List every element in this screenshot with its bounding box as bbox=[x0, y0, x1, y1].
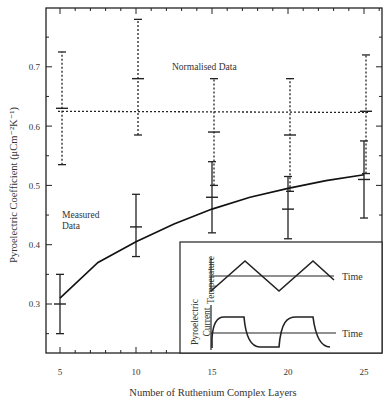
x-tick-label: 10 bbox=[132, 367, 142, 377]
y-tick-label: 0.5 bbox=[29, 181, 41, 191]
normalised-series bbox=[56, 19, 372, 191]
normalised-data-label: Normalised Data bbox=[172, 62, 237, 72]
y-tick-label: 0.7 bbox=[29, 62, 41, 72]
chart: 5 10 15 20 25 0.3 0.4 0.5 0.6 0.7 Number… bbox=[0, 0, 388, 407]
inset-time-label-1: Time bbox=[342, 271, 363, 282]
y-axis-title: Pyroelectric Coefficient (μCm⁻²K⁻¹) bbox=[8, 107, 20, 263]
x-axis-title: Number of Ruthenium Complex Layers bbox=[129, 387, 296, 398]
inset-diagram: Temperature Time Pyroelectric Current Ti… bbox=[180, 242, 382, 353]
y-tick-labels: 0.3 0.4 0.5 0.6 0.7 bbox=[29, 62, 41, 309]
x-tick-label: 15 bbox=[208, 367, 218, 377]
x-tick-label: 25 bbox=[360, 367, 370, 377]
inset-time-label-2: Time bbox=[342, 328, 363, 339]
mean-line bbox=[58, 111, 368, 112]
measured-data-label-line2: Data bbox=[62, 221, 81, 231]
x-tick-label: 5 bbox=[58, 367, 63, 377]
y-tick-label: 0.4 bbox=[29, 240, 41, 250]
x-tick-label: 20 bbox=[284, 367, 294, 377]
measured-data-label-line1: Measured bbox=[62, 210, 100, 220]
y-tick-label: 0.3 bbox=[29, 299, 41, 309]
y-tick-label: 0.6 bbox=[29, 122, 41, 132]
x-tick-labels: 5 10 15 20 25 bbox=[58, 367, 369, 377]
inset-current-label-line1: Pyroelectric bbox=[190, 299, 200, 345]
